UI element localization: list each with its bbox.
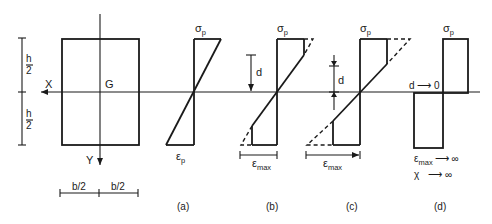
panel-d-fully-plastic: σp d ⟶ 0 εmax⟶ ∞ χ⟶ ∞ (d) (409, 22, 468, 212)
svg-text:χ⟶ ∞: χ⟶ ∞ (414, 169, 452, 180)
panel-a-elastic-limit: σp εp (a) (166, 22, 221, 212)
svg-text:b/2: b/2 (72, 181, 86, 192)
panel-c-mostly-plastic: d εmax σp (c) (306, 22, 410, 212)
svg-text:2: 2 (26, 120, 32, 131)
svg-text:h: h (26, 108, 32, 119)
svg-text:εmax: εmax (252, 157, 271, 172)
svg-text:εmax: εmax (323, 157, 342, 172)
svg-text:2: 2 (26, 65, 32, 76)
height-dimension: h 2 h 2 (18, 38, 33, 145)
strain-label: εp (176, 150, 185, 165)
caption-d: (d) (434, 201, 446, 212)
svg-text:b/2: b/2 (111, 181, 125, 192)
y-axis-label: Y (86, 154, 94, 166)
caption-c: (c) (346, 201, 358, 212)
svg-text:d: d (256, 66, 262, 78)
width-dimension: b/2 b/2 (60, 181, 138, 197)
svg-text:σp: σp (443, 22, 454, 37)
stress-label: σp (195, 22, 206, 37)
caption-a: (a) (177, 201, 189, 212)
svg-text:h: h (26, 53, 32, 64)
svg-text:σp: σp (277, 22, 288, 37)
svg-text:εmax⟶ ∞: εmax⟶ ∞ (414, 153, 459, 167)
x-axis-label: X (45, 78, 53, 90)
svg-text:d: d (338, 74, 344, 86)
centroid-label: G (105, 78, 114, 90)
cross-section: X Y G h 2 h 2 b/2 b/2 (18, 14, 480, 197)
stress-distribution-diagram: X Y G h 2 h 2 b/2 b/2 (0, 0, 492, 224)
panel-b-partial-plastic: d εmax σp (b) (240, 22, 313, 212)
svg-text:σp: σp (360, 22, 371, 37)
caption-b: (b) (266, 201, 278, 212)
svg-text:d ⟶ 0: d ⟶ 0 (409, 80, 440, 91)
